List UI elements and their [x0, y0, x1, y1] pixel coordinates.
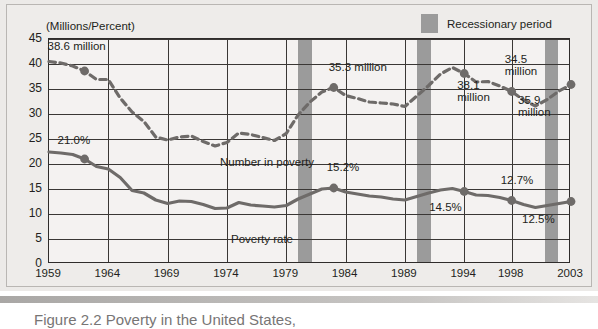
data-point-marker: [507, 87, 516, 96]
x-tick-label-1989: 1989: [391, 267, 417, 279]
series-svg: [49, 39, 571, 264]
y-tick-label-40: 40: [16, 56, 42, 70]
plot-area: [48, 38, 570, 263]
annotation-2003-millions: 35.9 million: [518, 94, 551, 119]
data-point-marker: [460, 187, 469, 196]
data-point-marker: [567, 197, 576, 206]
annotation-1983-percent: 15.2%: [327, 161, 360, 174]
data-point-marker: [460, 69, 469, 78]
x-tick-label-1959: 1959: [35, 267, 61, 279]
y-tick-label-30: 30: [16, 106, 42, 120]
x-tick-label-1984: 1984: [332, 267, 358, 279]
data-point-marker: [80, 155, 89, 164]
chart-page: (Millions/Percent) Recessionary period 0…: [0, 0, 598, 329]
annotation-1994-millions: 38.1 million: [457, 79, 490, 104]
data-point-marker: [567, 80, 576, 89]
legend: Recessionary period: [421, 14, 552, 33]
series-label-poverty-rate: Poverty rate: [231, 233, 293, 245]
y-tick-label-25: 25: [16, 131, 42, 145]
x-tick-label-1974: 1974: [213, 267, 239, 279]
y-tick-label-5: 5: [16, 231, 42, 245]
y-tick-label-15: 15: [16, 181, 42, 195]
x-tick-label-2003: 2003: [557, 267, 583, 279]
annotation-1962-percent: 21.0%: [58, 134, 91, 147]
annotation-2003-percent: 12.5%: [522, 213, 555, 226]
y-tick-label-20: 20: [16, 156, 42, 170]
data-point-marker: [507, 196, 516, 205]
legend-label-recessionary-period: Recessionary period: [447, 18, 552, 30]
x-tick-label-1964: 1964: [95, 267, 121, 279]
y-tick-label-10: 10: [16, 206, 42, 220]
data-point-marker: [329, 83, 338, 92]
x-tick-label-1994: 1994: [450, 267, 476, 279]
y-axis-units-label: (Millions/Percent): [46, 20, 135, 32]
annotation-1994-percent: 14.5%: [429, 201, 462, 214]
recession-swatch-icon: [421, 14, 438, 33]
x-tick-label-1998: 1998: [498, 267, 524, 279]
caption-divider-bar: [0, 296, 598, 303]
data-point-marker: [80, 67, 89, 76]
series-line-number-in-poverty: [49, 62, 571, 147]
y-tick-label-35: 35: [16, 81, 42, 95]
y-tick-label-45: 45: [16, 31, 42, 45]
annotation-1998-millions: 34.5 million: [505, 53, 538, 78]
x-tick-label-1979: 1979: [272, 267, 298, 279]
x-tick-label-1969: 1969: [154, 267, 180, 279]
data-point-marker: [329, 184, 338, 193]
annotation-1962-millions: 38.6 million: [48, 40, 106, 53]
figure-caption: Figure 2.2 Poverty in the United States,: [34, 311, 296, 328]
series-label-number-in-poverty: Number in poverty: [220, 156, 314, 168]
annotation-1998-percent: 12.7%: [501, 174, 534, 187]
annotation-1983-millions: 35.3 million: [329, 61, 387, 74]
